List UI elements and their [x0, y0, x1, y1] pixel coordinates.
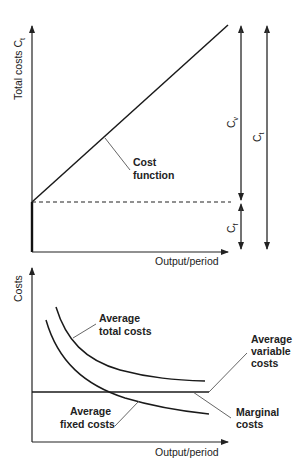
top-x-axis-label: Output/period [155, 255, 219, 267]
cost-function-label-1: Cost [133, 156, 157, 168]
cv-label: Cv [225, 116, 239, 128]
cost-function-leader [105, 138, 130, 170]
cost-function-label-2: function [133, 169, 174, 181]
mc-leader [193, 392, 231, 418]
atc-leader [73, 324, 96, 338]
top-chart: Cost function Total costs Ct Output/peri… [12, 25, 267, 267]
afc-label-1: Average [70, 405, 111, 417]
afc-label-2: fixed costs [60, 418, 115, 430]
svg-text:Cf: Cf [225, 223, 239, 233]
cost-diagram: Cost function Total costs Ct Output/peri… [0, 0, 305, 472]
ct-label: Ct [251, 132, 265, 142]
atc-label-2: total costs [99, 325, 152, 337]
svg-text:Ct: Ct [251, 132, 265, 142]
bottom-y-axis-label: Costs [12, 275, 24, 302]
top-y-axis-label: Total costs Ct [12, 38, 26, 100]
cf-label: Cf [225, 223, 239, 233]
bottom-chart: Costs Output/period Average total costs … [12, 268, 292, 458]
avc-leader [209, 353, 247, 392]
avc-label-1: Average [251, 333, 292, 345]
avc-label-2: variable [251, 345, 291, 357]
bottom-x-axis-label: Output/period [155, 446, 219, 458]
cost-function-line [32, 25, 228, 202]
svg-text:Cv: Cv [225, 116, 239, 128]
mc-label-2: costs [236, 418, 264, 430]
mc-label-1: Marginal [236, 406, 279, 418]
afc-leader [115, 401, 139, 426]
avc-label-3: costs [251, 357, 279, 369]
svg-text:Total costs Ct: Total costs Ct [12, 38, 26, 100]
svg-text:Costs: Costs [12, 275, 24, 302]
atc-label-1: Average [99, 312, 140, 324]
